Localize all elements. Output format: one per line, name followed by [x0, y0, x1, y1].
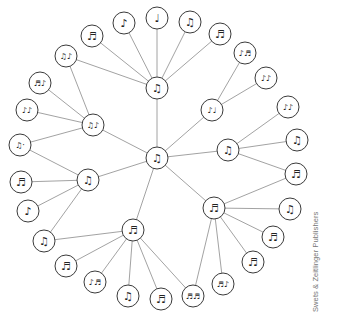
leaf-node-r1: ♫: [286, 129, 308, 151]
music-note-icon: ♬: [209, 202, 219, 215]
music-note-icon: ♪♪: [283, 103, 293, 112]
hub-node-UR: ♪♩: [201, 99, 223, 121]
rhythm-network-diagram: ♫♫♫♪♫♬♬♫♪♩♬♪♩♫♬♫♪♬♪♪♪♫·♬♪♫♬♪♬♫♬♬♬♬♪♬♬♫♬♫…: [0, 0, 340, 323]
publisher-watermark: Swets & Zeitlinger Publishers: [311, 212, 320, 312]
leaf-node-l3: ♫·: [9, 134, 31, 156]
music-note-icon: ♬: [128, 224, 138, 237]
music-note-icon: ♪♪: [22, 106, 32, 115]
leaf-node-bl: ♫: [33, 230, 55, 252]
hub-node-T: ♫: [146, 77, 168, 99]
leaf-node-l2: ♪♪: [16, 99, 38, 121]
music-note-icon: ♫·: [15, 141, 25, 150]
music-note-icon: ♪: [120, 17, 127, 30]
music-note-icon: ♬♪: [217, 280, 229, 289]
leaf-node-ur2: ♪♬: [234, 42, 256, 64]
music-note-icon: ♬: [16, 176, 26, 189]
leaf-node-b2: ♪♬: [84, 271, 106, 293]
music-note-icon: ♪♬: [89, 278, 101, 287]
leaf-node-ur1: ♪♪: [255, 67, 277, 89]
music-note-icon: ♫: [223, 144, 233, 157]
leaf-node-l1: ♬♪: [29, 72, 51, 94]
leaf-node-t2: ♪: [113, 12, 135, 34]
edge-T-t1: [92, 36, 157, 88]
music-note-icon: ♫: [152, 82, 162, 95]
leaf-node-t4: ♫: [179, 11, 201, 33]
leaf-node-b3: ♫: [117, 285, 139, 307]
leaf-node-tl: ♫♪: [55, 45, 77, 67]
music-note-icon: ♫: [285, 203, 295, 216]
music-note-icon: ♪♪: [261, 74, 271, 83]
leaf-node-br2: ♬: [242, 251, 264, 273]
leaf-node-t1: ♬: [81, 25, 103, 47]
music-note-icon: ♩: [154, 12, 159, 25]
music-note-icon: ♫♪: [60, 52, 72, 61]
music-note-icon: ♪: [24, 205, 31, 218]
edge-T-t5: [157, 34, 220, 88]
leaf-node-b1: ♬: [55, 255, 77, 277]
hub-node-BR: ♬: [203, 197, 225, 219]
leaf-node-rr: ♬: [285, 163, 307, 185]
edge-B-bl: [44, 230, 133, 241]
hub-node-C: ♫: [146, 147, 168, 169]
edge-BR-bb: [193, 208, 214, 296]
leaf-node-t3: ♩: [146, 7, 168, 29]
leaf-node-br1: ♬♪: [212, 273, 234, 295]
music-note-icon: ♬: [215, 28, 225, 41]
leaf-node-br3: ♬: [262, 226, 284, 248]
music-note-icon: ♪♩: [208, 106, 217, 115]
hub-node-LL: ♫: [77, 169, 99, 191]
music-note-icon: ♬: [268, 231, 278, 244]
leaf-node-r2: ♪♪: [277, 96, 299, 118]
edge-B-bb: [133, 230, 193, 296]
music-note-icon: ♫: [39, 235, 49, 248]
music-note-icon: ♬: [156, 293, 166, 306]
hub-node-R: ♫: [217, 139, 239, 161]
leaf-node-ll2: ♪: [17, 200, 39, 222]
leaf-node-bb: ♬♬: [182, 285, 204, 307]
leaf-node-b4: ♬: [150, 288, 172, 310]
leaf-node-br4: ♫: [279, 198, 301, 220]
music-note-icon: ♫♪: [87, 121, 99, 130]
music-note-icon: ♫: [83, 174, 93, 187]
music-note-icon: ♫: [185, 16, 195, 29]
music-note-icon: ♬♬: [186, 292, 200, 301]
music-note-icon: ♬: [291, 168, 301, 181]
node-layer: ♫♫♫♪♫♬♬♫♪♩♬♪♩♫♬♫♪♬♪♪♪♫·♬♪♫♬♪♬♫♬♬♬♬♪♬♬♫♬♫…: [9, 7, 308, 310]
music-note-icon: ♫: [152, 152, 162, 165]
music-note-icon: ♫: [292, 134, 302, 147]
leaf-node-t5: ♬: [209, 23, 231, 45]
music-note-icon: ♬♪: [34, 79, 46, 88]
hub-node-L: ♫♪: [82, 114, 104, 136]
music-note-icon: ♬: [61, 260, 71, 273]
music-note-icon: ♬: [87, 30, 97, 43]
music-note-icon: ♪♬: [239, 49, 251, 58]
hub-node-B: ♬: [122, 219, 144, 241]
music-note-icon: ♫: [123, 290, 133, 303]
music-note-icon: ♬: [248, 256, 258, 269]
leaf-node-ll1: ♬: [10, 171, 32, 193]
